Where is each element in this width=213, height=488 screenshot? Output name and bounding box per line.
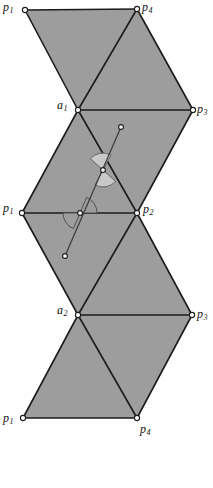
vertex-p3-lower [189, 312, 194, 317]
label-p1-bottom: p1 [3, 412, 13, 424]
transversal-crossing-lower [78, 211, 83, 216]
label-p2-mid: p2 [143, 203, 153, 215]
label-a2: a2 [57, 304, 67, 316]
label-p3-upper: p3 [197, 103, 207, 115]
transversal-endpoint-upper [119, 125, 124, 130]
label-p4-bottom: p4 [140, 423, 150, 435]
vertex-p3-upper [190, 107, 195, 112]
vertex-a1 [75, 107, 80, 112]
label-p1-top: p1 [3, 1, 13, 13]
vertex-p4-top [134, 6, 139, 11]
vertex-a2 [75, 312, 80, 317]
vertex-p1-bottom [20, 415, 25, 420]
vertex-p2-mid [134, 210, 139, 215]
label-p4-top: p4 [142, 1, 152, 13]
geometry-canvas [0, 0, 213, 488]
edge-top-p1-p4 [25, 9, 137, 10]
label-p1-mid: p1 [3, 202, 13, 214]
label-a1: a1 [57, 99, 67, 111]
transversal-endpoint-lower [63, 254, 68, 259]
vertex-p1-mid [19, 210, 24, 215]
transversal-crossing-upper [101, 168, 106, 173]
geometry-figure: p1p4a1p3p1p2a2p3p1p4 [0, 0, 213, 488]
vertex-p1-top [22, 7, 27, 12]
label-p3-lower: p3 [197, 308, 207, 320]
vertex-p4-bottom [134, 415, 139, 420]
